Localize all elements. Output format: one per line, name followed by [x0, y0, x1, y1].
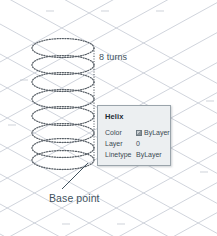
- color-swatch-icon: [136, 130, 142, 136]
- property-label-color: Color: [105, 129, 136, 136]
- property-value-color[interactable]: ByLayer: [136, 129, 170, 136]
- property-value-layer[interactable]: 0: [136, 140, 140, 147]
- property-row-layer[interactable]: Layer 0: [105, 138, 170, 149]
- property-value-linetype-text: ByLayer: [136, 151, 162, 158]
- property-row-color[interactable]: Color ByLayer: [105, 127, 170, 138]
- property-value-color-text: ByLayer: [144, 129, 170, 136]
- property-label-linetype: Linetype: [105, 151, 136, 158]
- property-value-layer-text: 0: [136, 140, 140, 147]
- base-point-annotation-label: Base point: [49, 192, 100, 204]
- helix-diagram-canvas: 8 turns Base point Helix Color ByLayer L…: [0, 0, 217, 236]
- tooltip-title: Helix: [105, 112, 170, 121]
- base-point-leader: [62, 163, 88, 189]
- helix-properties-tooltip[interactable]: Helix Color ByLayer Layer 0 Linetype ByL…: [97, 105, 171, 166]
- property-label-layer: Layer: [105, 140, 136, 147]
- property-value-linetype[interactable]: ByLayer: [136, 151, 162, 158]
- turns-annotation-label: 8 turns: [99, 52, 127, 62]
- property-row-linetype[interactable]: Linetype ByLayer: [105, 149, 170, 160]
